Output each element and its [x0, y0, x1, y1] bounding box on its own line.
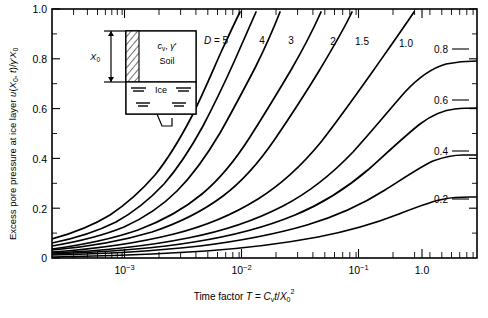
inset-hatch-column	[126, 31, 139, 82]
curve-label-D0p4: 0.4	[434, 146, 448, 157]
curve-label-D2: 2	[330, 36, 336, 47]
y-tick-label: 0.4	[32, 153, 47, 165]
inset-soil-label: Soil	[159, 56, 174, 66]
curve-label-D1p5: 1.5	[355, 36, 369, 47]
y-axis-title: Excess pore pressure at ice layer u(X0, …	[7, 48, 19, 240]
curve-label-D4: 4	[259, 35, 265, 46]
curve-label-D0p8: 0.8	[434, 44, 448, 55]
y-axis-title-text: Excess pore pressure at ice layer u(X0, …	[7, 48, 19, 240]
curve-label-D0p2: 0.2	[434, 194, 448, 205]
inset-ice-label: Ice	[155, 85, 167, 95]
y-tick-label: 0.6	[32, 103, 47, 115]
chart-svg: 1.0 0.8 0.6 0.4 0.2 0 Excess pore pressu…	[0, 0, 488, 318]
x-axis-title: Time factor T = Cvt/X02	[194, 288, 295, 303]
curve-label-D0p6: 0.6	[434, 95, 448, 106]
curve-label-D3: 3	[288, 35, 294, 46]
x-tick-label: 1.0	[415, 264, 430, 276]
y-tick-label: 0.2	[32, 203, 47, 215]
y-tick-label: 0.8	[32, 53, 47, 65]
y-tick-label: 0	[41, 252, 47, 264]
curve-label-D1p0: 1.0	[399, 38, 413, 49]
y-tick-label: 1.0	[32, 3, 47, 15]
curve-label-D5: D = 5	[204, 35, 229, 46]
inset-soil-params-label: cv, γ′	[158, 41, 177, 52]
figure-container: 1.0 0.8 0.6 0.4 0.2 0 Excess pore pressu…	[0, 0, 488, 318]
